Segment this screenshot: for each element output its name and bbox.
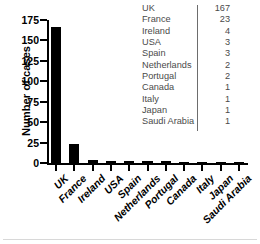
table-cell-count: 1 — [203, 116, 230, 127]
bar-portugal — [161, 161, 171, 163]
table-cell-count: 1 — [203, 105, 230, 116]
y-tick-100 — [40, 80, 47, 82]
bar-ireland — [88, 160, 98, 163]
table-row: Spain3 — [142, 48, 260, 59]
x-tick-2 — [92, 165, 94, 171]
x-tick-10 — [238, 165, 240, 171]
table-row: Portugal2 — [142, 71, 260, 82]
figure: Number of cases 0255075100125150175 UKFr… — [0, 0, 260, 244]
y-tick-175 — [40, 19, 47, 21]
table-row: UK167 — [142, 3, 260, 14]
bar-uk — [51, 27, 61, 163]
table-row: France23 — [142, 14, 260, 25]
table-row: Saudi Arabia1 — [142, 116, 260, 127]
y-tick-label-100: 100 — [21, 75, 39, 87]
y-tick-label-75: 75 — [27, 96, 39, 108]
bar-japan — [216, 162, 226, 164]
table-cell-count: 2 — [203, 71, 230, 82]
table-row: Netherlands2 — [142, 60, 260, 71]
table-body: UK167France23Ireland4USA3Spain3Netherlan… — [142, 3, 260, 128]
table-row: USA3 — [142, 37, 260, 48]
table-cell-country: Ireland — [142, 26, 170, 37]
table-cell-country: Spain — [142, 48, 166, 59]
table-cell-count: 2 — [203, 60, 230, 71]
table-row: Canada1 — [142, 82, 260, 93]
bar-saudi-arabia — [234, 162, 244, 164]
table-cell-country: Canada — [142, 82, 174, 93]
table-cell-country: Portugal — [142, 71, 176, 82]
bar-spain — [124, 161, 134, 163]
table-cell-country: France — [142, 14, 171, 25]
y-tick-label-50: 50 — [27, 116, 39, 128]
table-cell-country: USA — [142, 37, 161, 48]
table-cell-count: 167 — [203, 3, 230, 14]
x-tick-4 — [128, 165, 130, 171]
y-tick-0 — [40, 162, 47, 164]
y-tick-125 — [40, 60, 47, 62]
table-row: Italy1 — [142, 94, 260, 105]
y-tick-label-125: 125 — [21, 55, 39, 67]
table-cell-count: 1 — [203, 82, 230, 93]
bar-netherlands — [142, 161, 152, 163]
x-tick-6 — [165, 165, 167, 171]
y-tick-25 — [40, 142, 47, 144]
y-tick-150 — [40, 39, 47, 41]
x-tick-1 — [73, 165, 75, 171]
y-tick-label-150: 150 — [21, 34, 39, 46]
y-tick-75 — [40, 101, 47, 103]
counts-table: UK167France23Ireland4USA3Spain3Netherlan… — [142, 3, 260, 128]
x-tick-5 — [147, 165, 149, 171]
table-cell-country: Saudi Arabia — [142, 116, 194, 127]
y-tick-label-25: 25 — [27, 137, 39, 149]
x-tick-0 — [55, 165, 57, 171]
table-cell-count: 3 — [203, 48, 230, 59]
table-row: Ireland4 — [142, 26, 260, 37]
x-tick-8 — [201, 165, 203, 171]
y-tick-label-0: 0 — [33, 157, 39, 169]
table-cell-country: UK — [142, 3, 155, 14]
table-cell-country: Netherlands — [142, 60, 192, 71]
table-cell-count: 1 — [203, 94, 230, 105]
table-cell-count: 3 — [203, 37, 230, 48]
y-tick-label-175: 175 — [21, 14, 39, 26]
table-cell-country: Italy — [142, 94, 159, 105]
bar-france — [69, 144, 79, 163]
y-axis-line — [47, 20, 49, 164]
y-tick-50 — [40, 121, 47, 123]
table-row: Japan1 — [142, 105, 260, 116]
x-tick-9 — [220, 165, 222, 171]
table-cell-count: 23 — [203, 14, 230, 25]
table-cell-count: 4 — [203, 26, 230, 37]
x-tick-3 — [110, 165, 112, 171]
bottom-rule — [3, 239, 257, 240]
bar-canada — [179, 162, 189, 164]
bar-usa — [106, 161, 116, 163]
bar-italy — [197, 162, 207, 164]
x-tick-7 — [183, 165, 185, 171]
table-cell-country: Japan — [142, 105, 167, 116]
